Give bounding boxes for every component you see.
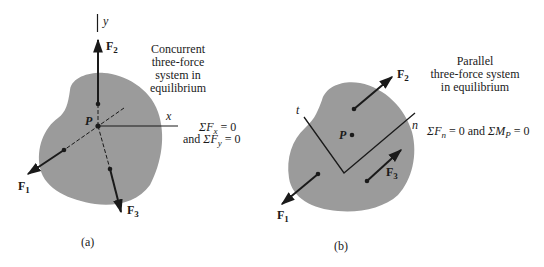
description-b: Parallel three-force system in equilibri… bbox=[425, 55, 525, 94]
f3-application-point bbox=[108, 167, 113, 172]
f3-label-b: F3 bbox=[386, 166, 398, 183]
point-p-b bbox=[350, 133, 355, 138]
f1-application-point-b bbox=[316, 172, 321, 177]
f3-application-point-b bbox=[365, 179, 370, 184]
equation-sum-fn-mp: ΣFn = 0 and ΣMP = 0 bbox=[427, 125, 529, 142]
n-axis-label: n bbox=[412, 119, 418, 132]
description-a: Concurrent three-force system in equilib… bbox=[145, 43, 211, 95]
caption-a: (a) bbox=[81, 236, 94, 249]
f2-application-point-b bbox=[352, 107, 357, 112]
f1-label-a: F1 bbox=[18, 180, 30, 197]
rigid-body-b bbox=[288, 82, 414, 211]
point-p-a bbox=[95, 123, 100, 128]
x-axis-label: x bbox=[166, 110, 171, 123]
f2-label-b: F2 bbox=[397, 68, 409, 85]
f2-label-a: F2 bbox=[106, 40, 118, 57]
point-p-label-a: P bbox=[85, 115, 92, 128]
f1-application-point bbox=[62, 148, 67, 153]
y-axis-label: y bbox=[103, 15, 108, 28]
equation-sum-fy: and ΣFy = 0 bbox=[183, 133, 241, 150]
caption-b: (b) bbox=[334, 240, 348, 253]
f1-label-b: F1 bbox=[277, 209, 289, 226]
f2-application-point bbox=[96, 102, 101, 107]
point-p-label-b: P bbox=[339, 129, 346, 142]
rigid-body-a bbox=[39, 73, 162, 205]
panel-b-diagram bbox=[282, 77, 415, 211]
f3-label-a: F3 bbox=[127, 204, 139, 221]
t-axis-label: t bbox=[296, 104, 299, 117]
